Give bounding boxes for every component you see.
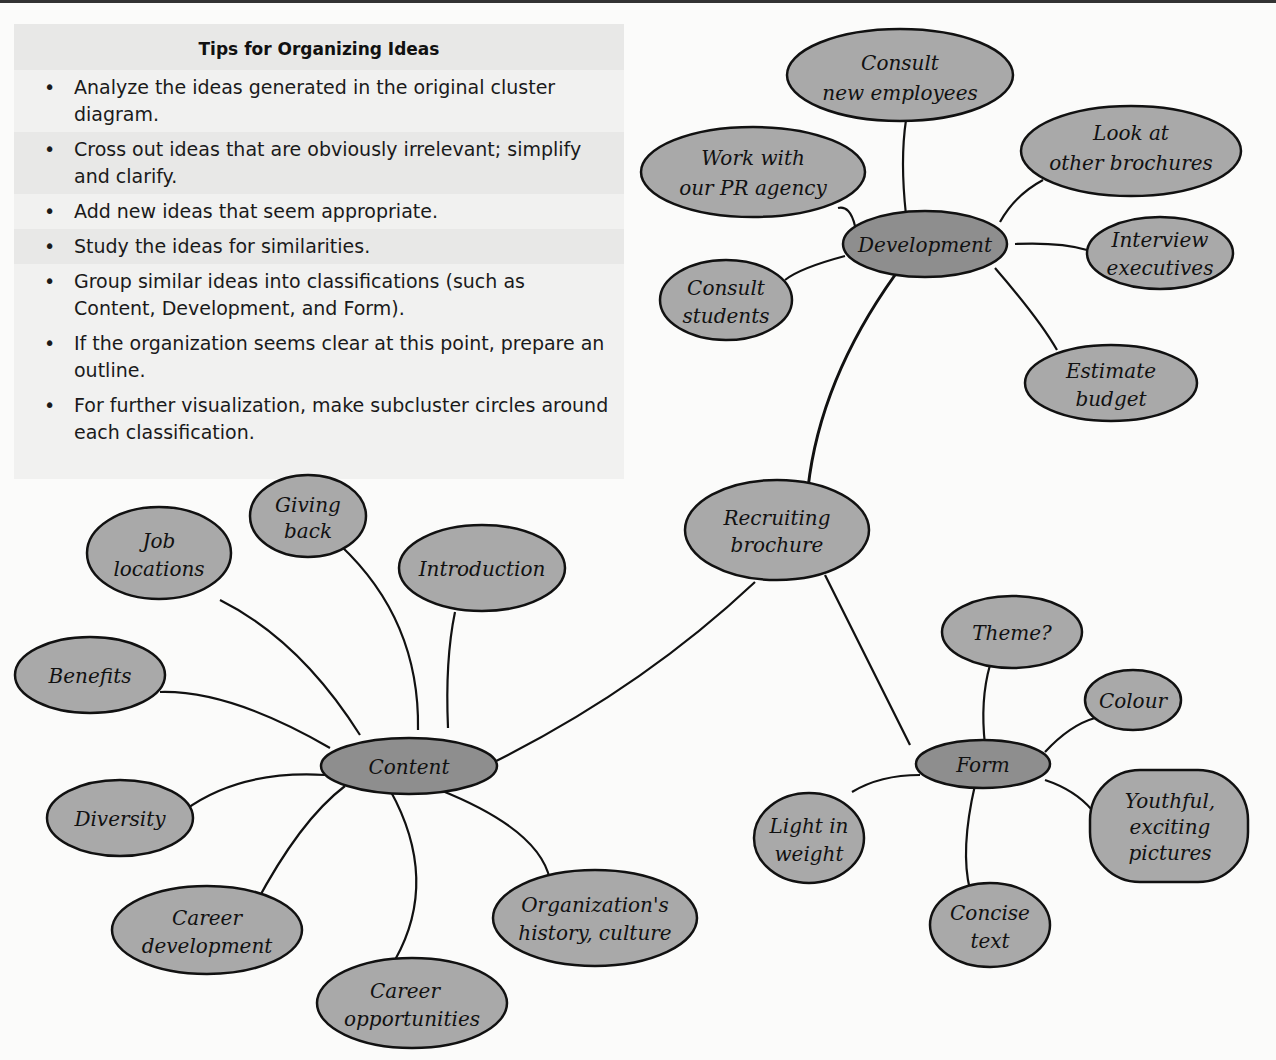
node-colour: Colour (1085, 670, 1181, 730)
svg-text:Benefits: Benefits (48, 664, 132, 688)
svg-text:Consult: Consult (861, 51, 940, 75)
node-recruiting-brochure: Recruiting brochure (685, 480, 869, 580)
svg-text:Diversity: Diversity (73, 807, 166, 831)
node-estimate-budget: Estimate budget (1025, 345, 1197, 421)
svg-text:Youthful,: Youthful, (1125, 789, 1215, 813)
svg-text:Development: Development (857, 233, 993, 257)
svg-text:brochure: brochure (731, 533, 824, 557)
svg-text:opportunities: opportunities (344, 1007, 480, 1031)
svg-text:development: development (142, 934, 274, 958)
svg-text:other brochures: other brochures (1049, 151, 1213, 175)
svg-text:Giving: Giving (275, 493, 341, 517)
svg-text:new employees: new employees (822, 81, 977, 105)
node-giving-back: Giving back (250, 475, 366, 557)
node-organizations-history-culture: Organization's history, culture (493, 870, 697, 966)
svg-text:Concise: Concise (950, 901, 1030, 925)
svg-text:history, culture: history, culture (518, 921, 671, 945)
svg-text:Light in: Light in (768, 814, 848, 838)
svg-text:Look at: Look at (1092, 121, 1170, 145)
svg-text:weight: weight (774, 842, 844, 866)
node-theme: Theme? (942, 596, 1082, 668)
svg-text:Content: Content (368, 755, 450, 779)
node-development: Development (843, 211, 1007, 277)
svg-text:students: students (682, 304, 769, 328)
svg-text:executives: executives (1107, 256, 1214, 280)
svg-text:Recruiting: Recruiting (722, 506, 830, 530)
node-work-with-pr-agency: Work with our PR agency (641, 127, 865, 217)
svg-text:Form: Form (955, 753, 1009, 777)
node-consult-students: Consult students (660, 260, 792, 340)
node-consult-new-employees: Consult new employees (787, 29, 1013, 121)
node-interview-executives: Interview executives (1087, 217, 1233, 289)
node-concise-text: Concise text (930, 883, 1050, 967)
svg-text:Job: Job (139, 529, 176, 553)
node-look-at-other-brochures: Look at other brochures (1021, 106, 1241, 196)
svg-text:Theme?: Theme? (972, 621, 1052, 645)
node-benefits: Benefits (15, 637, 165, 713)
node-youthful-exciting-pictures: Youthful, exciting pictures (1090, 770, 1248, 882)
svg-text:Estimate: Estimate (1065, 359, 1156, 383)
node-light-in-weight: Light in weight (754, 793, 864, 883)
node-career-development: Career development (112, 886, 302, 974)
svg-text:text: text (970, 929, 1010, 953)
svg-text:back: back (284, 519, 332, 543)
node-job-locations: Job locations (87, 507, 231, 599)
svg-text:Consult: Consult (687, 276, 766, 300)
svg-text:Career: Career (370, 979, 441, 1003)
node-content: Content (321, 738, 497, 794)
svg-text:locations: locations (113, 557, 204, 581)
node-introduction: Introduction (399, 525, 565, 611)
node-diversity: Diversity (47, 780, 193, 856)
node-career-opportunities: Career opportunities (317, 958, 507, 1048)
node-form: Form (916, 740, 1050, 788)
svg-text:pictures: pictures (1129, 841, 1212, 865)
svg-text:Introduction: Introduction (418, 557, 546, 581)
svg-text:Organization's: Organization's (521, 893, 669, 917)
svg-text:our PR agency: our PR agency (679, 176, 827, 200)
svg-text:budget: budget (1075, 387, 1147, 411)
svg-text:exciting: exciting (1130, 815, 1211, 839)
svg-text:Colour: Colour (1099, 689, 1169, 713)
svg-text:Career: Career (172, 906, 243, 930)
svg-text:Work with: Work with (701, 146, 805, 170)
svg-text:Interview: Interview (1111, 228, 1209, 252)
cluster-diagram: Recruiting brochure Development Consult … (0, 0, 1276, 1060)
